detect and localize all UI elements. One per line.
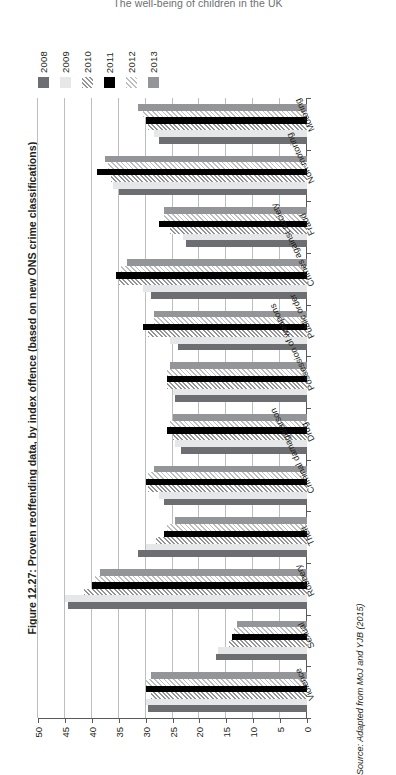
bar-2008-criminal-damage-arson[interactable] [164, 499, 307, 506]
bar-2013-criminal-damage-arson[interactable] [154, 466, 307, 473]
bar-row [38, 582, 307, 589]
bar-2010-theft[interactable] [156, 537, 307, 544]
legend-item-2013[interactable]: 2013 [148, 51, 159, 88]
bar-2008-violence[interactable] [148, 705, 307, 712]
legend-swatch-icon [38, 77, 49, 88]
bar-2010-possession-of-weapons[interactable] [167, 382, 307, 389]
bar-row [38, 227, 307, 234]
bar-2009-violence[interactable] [146, 699, 307, 706]
bar-2009-possession-of-weapons[interactable] [173, 389, 308, 396]
bar-2010-non-motoring[interactable] [111, 175, 307, 182]
bar-2010-violence[interactable] [151, 692, 307, 699]
bar-2010-robbery[interactable] [84, 589, 307, 596]
bar-row [38, 589, 307, 596]
bar-row [38, 414, 307, 421]
bar-row [38, 234, 307, 241]
bar-row [38, 395, 307, 402]
bar-2008-sexual[interactable] [216, 654, 307, 661]
bar-row [38, 634, 307, 641]
bar-2012-criminal-damage-arson[interactable] [148, 472, 307, 479]
bar-2011-criminal-damage-arson[interactable] [146, 479, 307, 486]
bar-group-theft [38, 511, 307, 563]
bar-2008-crimes-against-society[interactable] [151, 292, 307, 299]
bar-2008-robbery[interactable] [68, 602, 307, 609]
bar-2010-criminal-damage-arson[interactable] [148, 485, 307, 492]
bar-row [38, 382, 307, 389]
bar-row [38, 640, 307, 647]
category-tick [307, 666, 311, 667]
bar-2013-public-order[interactable] [154, 311, 307, 318]
bar-2010-motoring[interactable] [148, 124, 307, 131]
bar-row [38, 330, 307, 337]
bar-2012-non-motoring[interactable] [108, 162, 307, 169]
bar-2010-crimes-against-society[interactable] [119, 279, 307, 286]
bar-2011-non-motoring[interactable] [97, 169, 307, 176]
bar-2012-robbery[interactable] [95, 576, 308, 583]
bar-2013-possession-of-weapons[interactable] [170, 362, 307, 369]
category-tick [307, 615, 311, 616]
bar-row [38, 485, 307, 492]
bar-row [38, 104, 307, 111]
legend-item-2008[interactable]: 2008 [38, 51, 49, 88]
bar-2012-sexual[interactable] [234, 627, 307, 634]
bar-row [38, 621, 307, 628]
value-tick-label: 10 [248, 727, 259, 738]
bar-2008-non-motoring[interactable] [119, 189, 307, 196]
bar-2010-sexual[interactable] [229, 640, 307, 647]
legend-item-2010[interactable]: 2010 [82, 51, 93, 88]
bar-group-non-motoring [38, 150, 307, 202]
bar-2011-sexual[interactable] [232, 634, 307, 641]
bar-2011-theft[interactable] [164, 531, 307, 538]
bar-2009-robbery[interactable] [65, 595, 307, 602]
bar-2013-motoring[interactable] [138, 104, 307, 111]
bar-2011-motoring[interactable] [146, 117, 307, 124]
value-tick-mark [199, 718, 200, 723]
bar-2012-theft[interactable] [167, 524, 307, 531]
bar-2009-non-motoring[interactable] [113, 182, 307, 189]
bar-2013-fraud[interactable] [164, 207, 307, 214]
bar-2009-crimes-against-society[interactable] [143, 285, 307, 292]
bar-group-drug [38, 408, 307, 460]
bar-2012-motoring[interactable] [143, 111, 307, 118]
category-tick [307, 563, 311, 564]
bar-2013-robbery[interactable] [100, 569, 307, 576]
value-tick-label: 30 [141, 727, 152, 738]
bar-2009-sexual[interactable] [218, 647, 307, 654]
bar-2012-violence[interactable] [146, 679, 307, 686]
bar-row [38, 272, 307, 279]
legend-item-2011[interactable]: 2011 [104, 52, 115, 88]
bar-group-fraud [38, 201, 307, 253]
bar-2013-drug[interactable] [173, 414, 308, 421]
bar-2011-possession-of-weapons[interactable] [167, 376, 307, 383]
bar-2009-criminal-damage-arson[interactable] [159, 492, 307, 499]
value-tick-label: 5 [275, 727, 286, 732]
value-tick-label: 15 [221, 727, 232, 738]
bar-2008-possession-of-weapons[interactable] [175, 395, 307, 402]
bar-2011-violence[interactable] [146, 686, 307, 693]
bar-group-motoring [38, 98, 307, 150]
bar-2012-possession-of-weapons[interactable] [167, 369, 307, 376]
legend-item-2012[interactable]: 2012 [126, 51, 137, 88]
legend-item-2009[interactable]: 2009 [60, 51, 71, 88]
bar-2011-robbery[interactable] [92, 582, 307, 589]
bar-2012-crimes-against-society[interactable] [121, 266, 307, 273]
bar-row [38, 266, 307, 273]
bar-row [38, 499, 307, 506]
bar-2013-non-motoring[interactable] [105, 156, 307, 163]
legend-swatch-icon [126, 77, 137, 88]
value-tick-mark [65, 718, 66, 723]
bar-row [38, 344, 307, 351]
bar-row [38, 156, 307, 163]
value-tick-label: 20 [194, 727, 205, 738]
chart-legend: 200820092010201120122013 [38, 28, 159, 88]
bar-2008-theft[interactable] [138, 550, 307, 557]
bar-2013-theft[interactable] [175, 517, 307, 524]
value-tick-label: 50 [33, 727, 44, 738]
bar-2013-violence[interactable] [151, 672, 307, 679]
bar-2011-crimes-against-society[interactable] [116, 272, 307, 279]
bar-row [38, 111, 307, 118]
value-tick-label: 35 [114, 727, 125, 738]
bar-2009-theft[interactable] [146, 544, 307, 551]
bar-2013-crimes-against-society[interactable] [127, 259, 307, 266]
bar-row [38, 517, 307, 524]
